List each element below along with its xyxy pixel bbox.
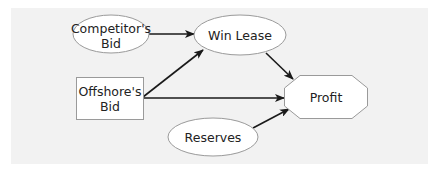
node-label: Win Lease xyxy=(208,28,272,43)
node-offshores-bid[interactable]: Offshore's Bid xyxy=(77,78,144,120)
node-label-line-1: Offshore's xyxy=(78,84,141,99)
node-win-lease[interactable]: Win Lease xyxy=(194,15,286,55)
influence-diagram: Competitor's Bid Win Lease Offshore's Bi… xyxy=(0,0,440,171)
node-profit[interactable]: Profit xyxy=(285,76,368,119)
node-label-line-1: Competitor's xyxy=(71,21,151,36)
node-label: Reserves xyxy=(185,130,242,145)
edge-reserves-to-profit xyxy=(253,109,289,128)
node-competitors-bid[interactable]: Competitor's Bid xyxy=(71,15,151,53)
edge-offshores-bid-to-win-lease xyxy=(143,50,203,97)
node-reserves[interactable]: Reserves xyxy=(168,118,258,156)
node-label-line-2: Bid xyxy=(101,36,121,51)
node-label-line-2: Bid xyxy=(100,99,120,114)
edge-win-lease-to-profit xyxy=(266,53,293,79)
node-label: Profit xyxy=(310,90,343,105)
